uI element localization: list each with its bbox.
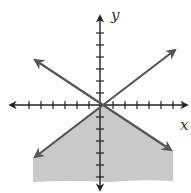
coordinate-graph: y x: [0, 0, 191, 193]
x-axis-label: x: [180, 116, 189, 134]
y-axis-label: y: [110, 6, 120, 24]
